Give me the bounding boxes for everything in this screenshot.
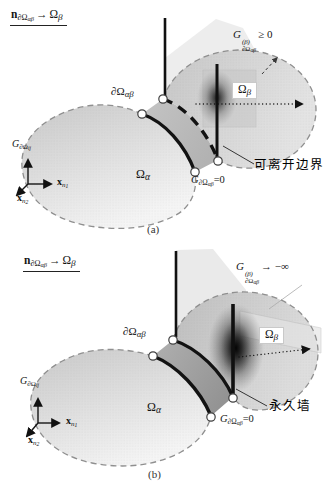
g-axis-label-b: G∂Ωij <box>20 376 39 389</box>
boundary-label-b: ∂Ωαβ <box>123 326 146 339</box>
junction-point <box>207 413 215 421</box>
g-axis-label-a: G∂Ωij <box>12 139 31 152</box>
g-condition-a: G(β)∂Ωαβ≥ 0 <box>233 29 272 54</box>
g-zero-label-a: G∂Ωαβ=0 <box>191 174 225 187</box>
arrow-glyph: → <box>36 8 48 20</box>
x1-axis-label-a: xn1 <box>57 177 68 190</box>
g-zero-label-b: G∂Ωαβ=0 <box>220 413 254 426</box>
figure: n∂Ωαβ→Ωβ G(β)∂Ωαβ≥ 0 ∂Ωαβ Ωβ Ωα G∂Ωαβ=0 … <box>0 0 323 499</box>
g-condition-b: G(β)∂Ωαβ→ −∞ <box>236 261 289 286</box>
boundary-label-a: ∂Ωαβ <box>111 86 134 99</box>
caption-b: (b) <box>148 469 161 481</box>
omega-alpha-label-a: Ωα <box>136 168 150 182</box>
detachable-boundary-annotation: 可离开边界 <box>254 159 323 172</box>
x2-axis-label-a: xn2 <box>17 193 28 206</box>
normal-direction-condition-b: n∂Ωαβ→Ωβ <box>23 254 80 272</box>
contact-pressure-core-b <box>221 320 251 376</box>
x1-axis-label-b: xn1 <box>66 416 77 429</box>
x2-axis-label-b: xn2 <box>28 435 39 448</box>
omega-beta-label-a: Ωβ <box>232 82 257 99</box>
permanent-wall-annotation: 永久墙 <box>269 400 311 413</box>
figure-canvas <box>0 0 323 499</box>
junction-point <box>169 336 177 344</box>
junction-point <box>229 394 237 402</box>
omega-alpha-label-b: Ωα <box>147 401 161 415</box>
junction-point <box>149 352 157 360</box>
junction-point <box>159 95 167 103</box>
normal-direction-condition-a: n∂Ωαβ→Ωβ <box>10 8 67 26</box>
arrow-glyph: → <box>49 254 61 266</box>
junction-point <box>214 157 222 165</box>
caption-a: (a) <box>147 224 159 236</box>
junction-point <box>138 110 146 118</box>
omega-beta-label-b: Ωβ <box>259 327 284 344</box>
